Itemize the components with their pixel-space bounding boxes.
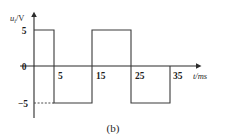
ytick-label-0: 0 xyxy=(22,62,27,72)
x-axis-title: t/ms xyxy=(193,71,208,81)
xtick-label-35: 35 xyxy=(173,71,183,81)
figure-caption: (b) xyxy=(107,122,120,135)
figure-panel: 5 0 −5 5 15 25 35 t/ms ui/V (b) xyxy=(0,0,227,138)
xtick-label-15: 15 xyxy=(96,71,106,81)
ytick-label-minus5: −5 xyxy=(18,99,28,109)
y-axis-title: ui/V xyxy=(10,13,25,24)
y-axis-arrow-icon xyxy=(31,12,37,17)
x-axis-arrow-icon xyxy=(196,63,202,69)
ytick-label-5: 5 xyxy=(22,26,27,36)
waveform-chart: 5 0 −5 5 15 25 35 t/ms ui/V (b) xyxy=(0,0,227,138)
xtick-label-5: 5 xyxy=(58,71,63,81)
xtick-label-25: 25 xyxy=(135,71,145,81)
y-axis-title-unit: /V xyxy=(16,13,25,23)
